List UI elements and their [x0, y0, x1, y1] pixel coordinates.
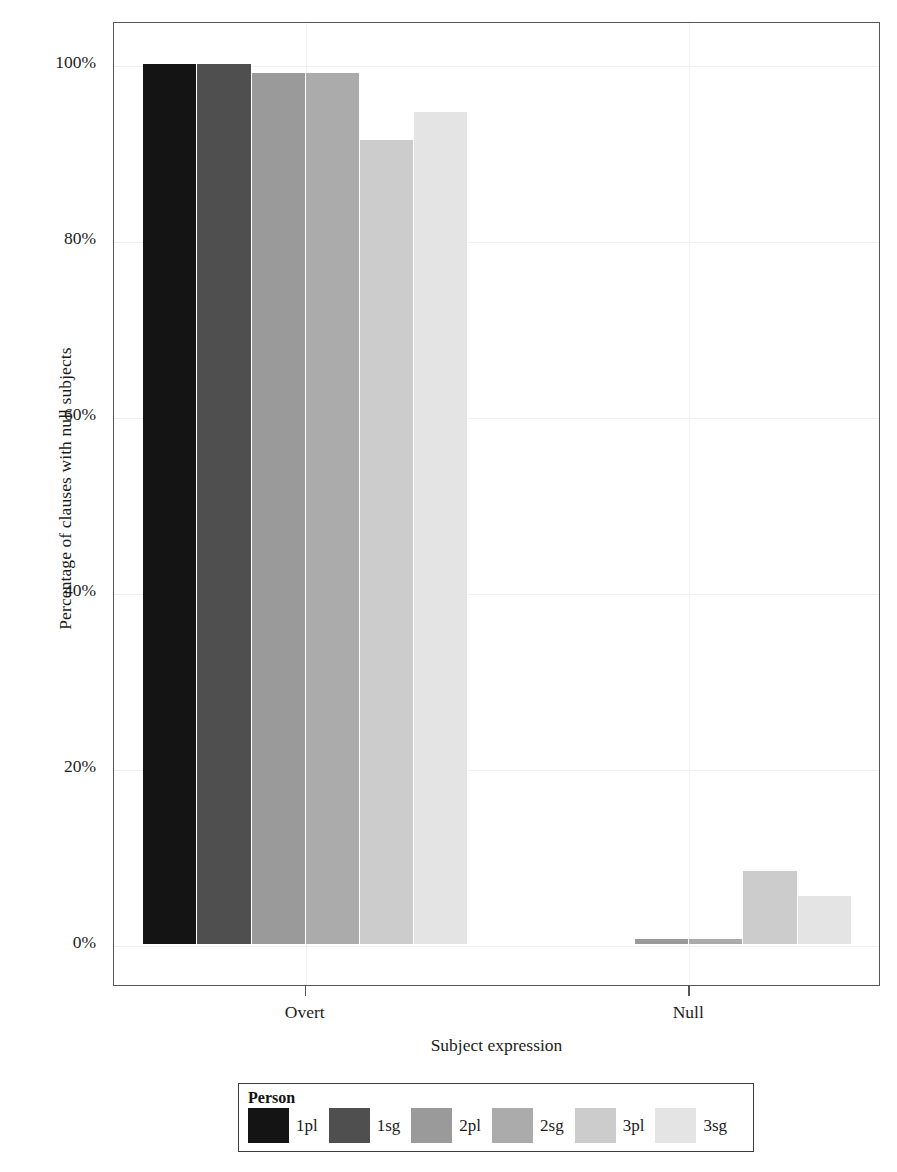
- legend-item[interactable]: 2sg: [492, 1108, 564, 1143]
- y-tick-label: 20%: [64, 756, 96, 777]
- legend-swatch: [492, 1108, 533, 1143]
- legend-swatch: [655, 1108, 696, 1143]
- legend-swatch: [329, 1108, 370, 1143]
- legend-swatch: [248, 1108, 289, 1143]
- bar: [414, 112, 468, 944]
- legend-label: 3sg: [703, 1117, 727, 1134]
- bar: [252, 73, 306, 944]
- bar: [306, 73, 360, 944]
- x-tick-mark: [688, 986, 689, 996]
- bar: [798, 896, 852, 944]
- x-tick-label: Null: [673, 1002, 704, 1023]
- legend-item[interactable]: 3sg: [655, 1108, 727, 1143]
- bar: [197, 64, 251, 944]
- bar: [143, 64, 197, 944]
- y-tick-label: 0%: [73, 932, 96, 953]
- y-tick-label: 100%: [55, 52, 96, 73]
- y-tick-label: 80%: [64, 228, 96, 249]
- legend-label: 1sg: [377, 1117, 401, 1134]
- legend-label: 2sg: [540, 1117, 564, 1134]
- y-axis-title: Percentage of clauses with null subjects: [55, 209, 76, 769]
- plot-inner: [114, 23, 879, 985]
- legend-items: 1pl1sg2pl2sg3pl3sg: [248, 1108, 744, 1143]
- legend-item[interactable]: 1sg: [329, 1108, 401, 1143]
- bar: [360, 140, 414, 944]
- bar: [743, 871, 797, 944]
- y-tick-label: 40%: [64, 580, 96, 601]
- x-axis-title: Subject expression: [113, 1035, 880, 1056]
- plot-area: [113, 22, 880, 986]
- legend-item[interactable]: 3pl: [575, 1108, 645, 1143]
- legend-swatch: [575, 1108, 616, 1143]
- bar: [689, 939, 743, 944]
- legend-swatch: [411, 1108, 452, 1143]
- x-tick-mark: [305, 986, 306, 996]
- gridline-horizontal: [114, 946, 879, 947]
- legend: Person 1pl1sg2pl2sg3pl3sg: [238, 1083, 754, 1152]
- y-tick-label: 60%: [64, 404, 96, 425]
- bar: [635, 939, 689, 944]
- chart-page: Percentage of clauses with null subjects…: [0, 0, 897, 1172]
- gridline-vertical: [689, 23, 690, 985]
- legend-item[interactable]: 1pl: [248, 1108, 318, 1143]
- legend-item[interactable]: 2pl: [411, 1108, 481, 1143]
- legend-label: 1pl: [296, 1117, 318, 1134]
- x-tick-label: Overt: [285, 1002, 325, 1023]
- legend-title: Person: [248, 1088, 744, 1107]
- legend-label: 3pl: [623, 1117, 645, 1134]
- legend-label: 2pl: [459, 1117, 481, 1134]
